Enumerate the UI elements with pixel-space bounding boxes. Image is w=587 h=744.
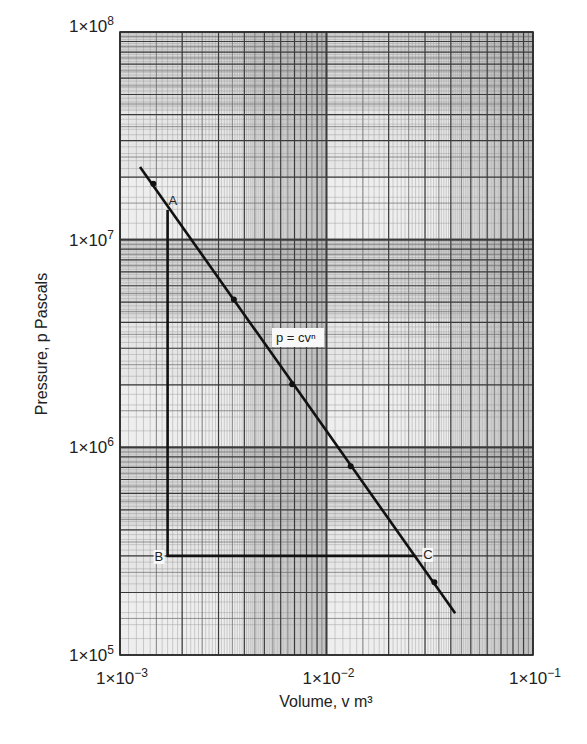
log-grid [120, 32, 533, 655]
y-tick-label: 1×107 [69, 228, 114, 250]
data-point [289, 381, 295, 387]
point-label-b: B [155, 549, 164, 564]
y-axis-label: Pressure, p Pascals [33, 273, 50, 415]
data-point [150, 181, 156, 187]
equation-label: p = cvⁿ [276, 330, 316, 345]
x-tick-label: 1×10−3 [96, 666, 148, 688]
y-tick-label: 1×106 [69, 435, 114, 457]
point-label-c: C [423, 547, 432, 562]
x-tick-label: 1×10−2 [303, 666, 355, 688]
y-tick-label: 1×105 [69, 643, 114, 665]
x-tick-label: 1×10−1 [509, 666, 561, 688]
y-tick-label: 1×108 [69, 14, 114, 36]
data-point [348, 463, 354, 469]
data-point [431, 579, 437, 585]
log-log-chart: ABCp = cvⁿ 1×1081×1071×1061×1051×10−31×1… [0, 0, 587, 744]
x-axis-label: Volume, v m³ [279, 693, 373, 710]
point-label-a: A [169, 193, 178, 208]
data-point [231, 297, 237, 303]
